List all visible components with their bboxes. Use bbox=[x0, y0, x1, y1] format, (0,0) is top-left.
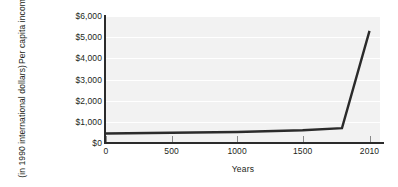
x-axis-title: Years bbox=[106, 164, 380, 174]
y-axis-tick-label: $2,000 bbox=[44, 96, 102, 106]
x-axis-tick-label: 1000 bbox=[227, 146, 246, 157]
y-axis-title-line-2: (in 1990 international dollars) bbox=[17, 65, 28, 178]
x-axis-tick-label: 2010 bbox=[360, 146, 379, 157]
y-axis-title-line-1: Per capita income bbox=[17, 0, 28, 64]
x-axis-tick-label: 500 bbox=[164, 146, 178, 157]
x-axis-tick-label: 1500 bbox=[293, 146, 312, 157]
x-axis-line bbox=[104, 142, 384, 144]
x-axis-tick-mark bbox=[106, 136, 107, 142]
y-axis-tick-label: $3,000 bbox=[44, 75, 102, 85]
y-axis-tick-labels: $0$1,000$2,000$3,000$4,000$5,000$6,000 bbox=[44, 10, 102, 150]
plot-area bbox=[106, 16, 380, 143]
per-capita-income-line-chart: Per capita income (in 1990 international… bbox=[0, 0, 398, 187]
series-line-per-capita-income bbox=[106, 16, 380, 143]
y-axis-line bbox=[104, 15, 106, 144]
y-axis-title: Per capita income (in 1990 international… bbox=[10, 15, 34, 157]
y-axis-tick-label: $4,000 bbox=[44, 53, 102, 63]
x-axis-tick-mark bbox=[172, 136, 173, 142]
y-axis-tick-label: $0 bbox=[44, 138, 102, 148]
x-axis-tick-label: 0 bbox=[104, 146, 109, 157]
y-axis-tick-label: $6,000 bbox=[44, 11, 102, 21]
y-axis-tick-label: $5,000 bbox=[44, 32, 102, 42]
x-axis-tick-mark bbox=[370, 136, 371, 142]
x-axis-tick-mark bbox=[303, 136, 304, 142]
x-axis-tick-mark bbox=[237, 136, 238, 142]
y-axis-tick-label: $1,000 bbox=[44, 117, 102, 127]
